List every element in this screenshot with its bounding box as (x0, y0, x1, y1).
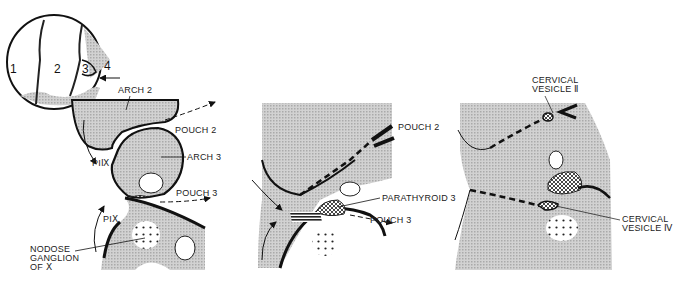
panel-right: CERVICAL VESICLE Ⅱ CERVICAL VESICLE Ⅳ (455, 75, 673, 270)
middle-ganglion (312, 230, 338, 256)
lower-vessel (175, 236, 195, 260)
inset-label-3: 3 (82, 62, 89, 76)
embryology-diagram: 1 2 3 4 ARCH 2 POUCH 2 ARCH 3 PIⅨ POUC (0, 0, 684, 284)
label-pi-9: PIⅨ (92, 158, 109, 168)
label-cv4-line2: VESICLE Ⅳ (622, 223, 673, 233)
right-vessel (549, 151, 563, 169)
label-arch-2: ARCH 2 (118, 85, 152, 95)
nodose-ganglion (132, 221, 160, 249)
right-ganglion (546, 215, 578, 241)
pouch-3-epithelium (130, 196, 150, 198)
parathyroid-3 (316, 200, 345, 216)
label-nodose-3: OF Ⅹ (30, 262, 52, 272)
panel-middle: POUCH 2 PARATHYROID 3 POUCH 3 (252, 103, 456, 268)
middle-vessel (340, 182, 360, 196)
label-pi-10: PIⅩ (103, 214, 118, 224)
label-middle-pouch-3: POUCH 3 (370, 215, 411, 225)
arrow-up-lower (94, 206, 104, 252)
inset-label-1: 1 (10, 62, 17, 76)
label-pouch-2: POUCH 2 (175, 125, 216, 135)
thymus-hatch (290, 212, 322, 222)
arch-3-vessel (139, 173, 163, 193)
inset-label-2: 2 (54, 62, 61, 76)
inset-magnification: 1 2 3 4 (7, 15, 120, 109)
label-pouch-3: POUCH 3 (176, 188, 217, 198)
panel-left: ARCH 2 POUCH 2 ARCH 3 PIⅨ POUCH 3 PIⅩ NO… (30, 85, 221, 272)
leader-parathyroid (338, 198, 380, 207)
label-arch-3: ARCH 3 (187, 152, 221, 162)
cervical-vesicle-2 (543, 113, 553, 121)
pouch-3-dash-arrow (160, 198, 210, 202)
inset-label-4: 4 (104, 59, 111, 73)
label-middle-pouch-2: POUCH 2 (398, 122, 439, 132)
label-cv2-line2: VESICLE Ⅱ (532, 84, 578, 94)
label-parathyroid-3: PARATHYROID 3 (382, 193, 456, 203)
